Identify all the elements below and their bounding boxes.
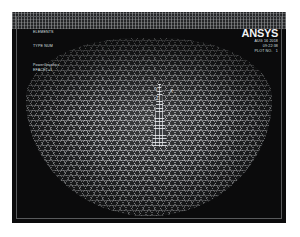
annotation-graphics-block: PowerGraphics EFACET=1	[33, 63, 60, 73]
graphics-window[interactable]: Y X Z ELEMENTS TYPE NUM PowerGraphics EF…	[12, 12, 286, 223]
annotation-timestamp-block: AUG 16 2018 09:22:38 PLOT NO. 1	[254, 39, 278, 54]
mesh-dome-body[interactable]	[26, 38, 272, 216]
annotation-view-block: TYPE NUM	[33, 44, 53, 49]
annotation-title-block: ELEMENTS	[33, 30, 54, 35]
ansys-mesh-plot-screenshot: Y X Z ELEMENTS TYPE NUM PowerGraphics EF…	[0, 0, 300, 237]
mesh-top-shadow	[26, 38, 272, 113]
ansys-logo: ANSYS	[242, 28, 278, 39]
